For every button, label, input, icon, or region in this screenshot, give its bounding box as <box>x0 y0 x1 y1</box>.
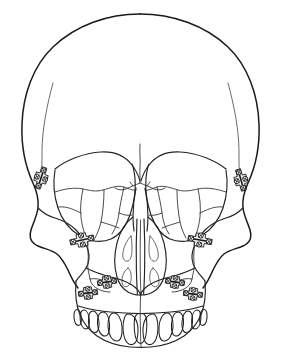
screw <box>86 294 91 299</box>
screw <box>98 280 103 285</box>
screw <box>206 239 212 245</box>
screw <box>191 287 196 292</box>
skull-illustration <box>0 0 281 363</box>
screw <box>172 283 177 288</box>
screw <box>196 242 202 248</box>
screw <box>197 292 202 297</box>
screw <box>198 232 204 238</box>
screw <box>85 286 90 291</box>
screw <box>179 280 184 285</box>
screw <box>173 275 178 280</box>
screw <box>166 278 171 283</box>
screw <box>79 291 84 296</box>
screw <box>111 278 116 283</box>
screw <box>104 275 109 280</box>
skull-figure <box>0 0 281 363</box>
screw <box>105 283 110 288</box>
screw <box>92 290 97 295</box>
screw <box>188 235 194 241</box>
screw <box>190 295 195 300</box>
screw <box>184 291 189 296</box>
